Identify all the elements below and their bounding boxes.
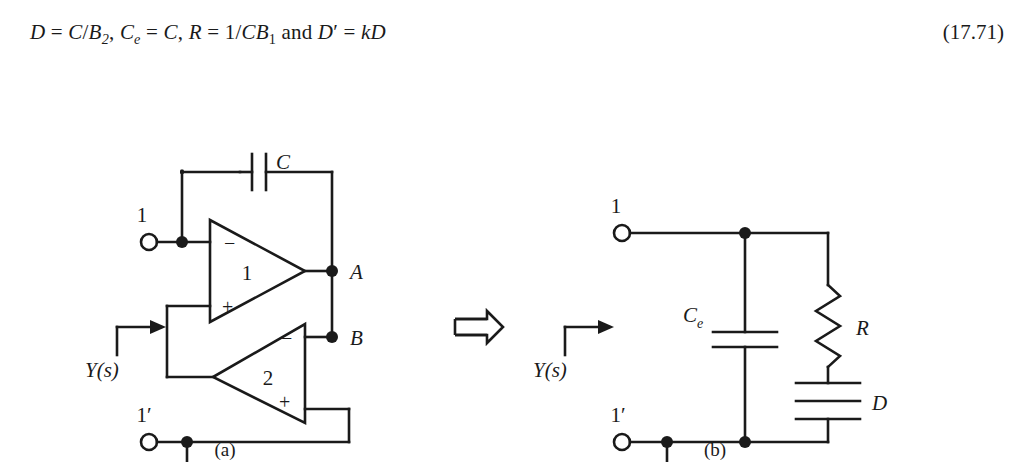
terminal-1-circle-b [614,225,630,241]
label-terminal-1-b: 1 [611,194,622,218]
label-terminal-1prime-b: 1′ [610,403,625,427]
label-capacitor-ce: Ce [683,303,703,331]
junction-dot-a-node-a [326,265,338,277]
label-node-b: B [350,326,363,350]
caption-b: (b) [704,439,726,461]
junction-dot-b-bottom [739,436,751,448]
transform-arrow-icon [455,311,503,343]
terminal-1prime-circle-b [614,434,630,450]
label-capacitor-c: C [276,150,291,174]
equation-body: D = C/B2, Ce = C, R = 1/CB1 and D′ = kD [30,20,386,44]
junction-dot-b-top [739,227,751,239]
junction-dot-a-node-b [326,331,338,343]
equation-text: D = C/B2, Ce = C, R = 1/CB1 and D′ = kD [30,20,386,48]
label-terminal-1-a: 1 [137,203,148,227]
arrow-b-head [598,320,614,334]
terminal-1-circle-a [141,234,157,250]
label-opamp2-noninverting: + [279,391,290,413]
junction-dot-a-ground [181,436,193,448]
label-opamp2-number: 2 [263,366,274,390]
figure-area: 1 1′ C − + 1 − + 2 A B Y(s) (a) 1 1′ Ce … [0,70,1026,462]
terminal-1prime-circle-a [141,434,157,450]
label-opamp1-noninverting: + [222,296,233,318]
junction-dot-b-ground [661,436,673,448]
caption-a: (a) [214,439,235,461]
label-resistor-r: R [855,316,869,340]
label-opamp2-inverting: − [281,327,292,349]
figure-page: D = C/B2, Ce = C, R = 1/CB1 and D′ = kD … [0,0,1026,462]
label-terminal-1prime-a: 1′ [136,403,151,427]
label-ys-a: Y(s) [85,358,119,382]
arrow-a-head [150,320,166,334]
junction-dot-a-input [176,236,188,248]
label-opamp1-number: 1 [242,261,253,285]
label-node-a: A [348,260,363,284]
resistor-r-zigzag [816,285,840,367]
label-opamp1-inverting: − [224,232,235,254]
label-ys-b: Y(s) [533,358,567,382]
equation-number: (17.71) [943,20,1004,45]
label-element-d: D [871,391,887,415]
